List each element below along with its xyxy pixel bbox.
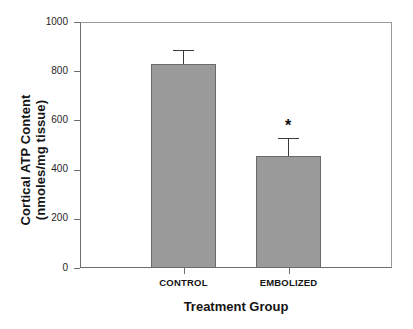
x-tick-mark-control [184,268,185,274]
x-tick-mark-embolized [289,268,290,274]
y-tick-label-800: 800 [8,66,68,76]
y-tick-label-1000: 1000 [8,17,68,27]
y-tick-label-400: 400 [8,164,68,174]
y-tick-label-600: 600 [8,115,68,125]
error-bar-stem-control [183,50,184,64]
x-tick-label-embolized: EMBOLIZED [219,277,359,288]
bar-chart-figure: Cortical ATP Content (nmoles/mg tissue) … [0,0,413,329]
plot-area [80,22,392,268]
y-tick-mark-0 [74,268,80,269]
bar-control [151,64,216,268]
error-bar-cap-control [173,50,194,51]
y-tick-label-200: 200 [8,213,68,223]
error-bar-stem-embolized [288,138,289,157]
x-axis-title: Treatment Group [80,299,392,314]
error-bar-cap-embolized [278,138,299,139]
y-tick-label-0: 0 [8,263,68,273]
bar-embolized [256,156,321,268]
significance-asterisk: * [278,120,298,132]
